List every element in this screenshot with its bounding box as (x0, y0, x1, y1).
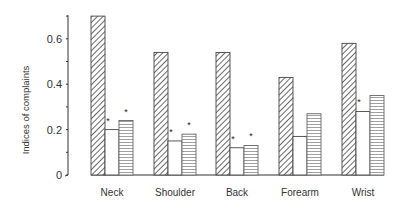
bar-forearm-series-1 (279, 77, 293, 175)
y-tick-label: 0 (56, 169, 62, 181)
y-tick-label: 0.6 (47, 33, 62, 45)
y-axis-label: Indices of complaints (20, 65, 31, 154)
labels: NeckShoulderBackForearmWrist (101, 187, 375, 198)
y-axis: 00.20.40.6 (47, 15, 68, 181)
x-category-label: Forearm (281, 187, 319, 198)
bar-shoulder-series-2 (168, 141, 182, 175)
x-category-label: Shoulder (155, 187, 196, 198)
bar-wrist-series-2 (356, 111, 370, 175)
y-tick-label: 0.4 (47, 78, 62, 90)
bar-wrist-series-1 (342, 43, 356, 175)
bars: ******* (91, 16, 384, 175)
bar-shoulder-series-3 (182, 134, 196, 175)
x-category-label: Neck (101, 187, 125, 198)
bar-forearm-series-2 (293, 136, 307, 175)
bar-wrist-series-3 (370, 96, 384, 175)
significance-asterisk: * (187, 120, 191, 130)
bar-shoulder-series-1 (154, 52, 168, 175)
y-tick-label: 0.2 (47, 124, 62, 136)
x-category-label: Wrist (352, 187, 375, 198)
bar-neck-series-1 (91, 16, 105, 175)
bar-back-series-2 (230, 148, 244, 175)
significance-asterisk: * (231, 134, 235, 144)
bar-back-series-1 (216, 52, 230, 175)
significance-asterisk: * (357, 97, 361, 107)
significance-asterisk: * (249, 131, 253, 141)
bar-forearm-series-3 (307, 114, 321, 175)
x-category-label: Back (226, 187, 249, 198)
bar-back-series-3 (244, 145, 258, 175)
bar-neck-series-3 (119, 121, 133, 175)
bar-chart: 00.20.40.6 ******* NeckShoulderBackForea… (0, 0, 403, 207)
significance-asterisk: * (124, 107, 128, 117)
bar-neck-series-2 (105, 130, 119, 175)
significance-asterisk: * (106, 116, 110, 126)
significance-asterisk: * (169, 127, 173, 137)
